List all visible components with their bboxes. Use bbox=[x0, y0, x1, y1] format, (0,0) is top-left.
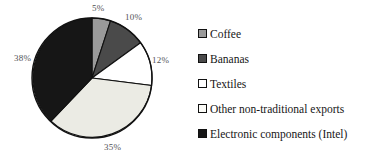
legend-item-other-nontraditional-exports: Other non-traditional exports bbox=[198, 96, 375, 121]
legend-item-bananas: Bananas bbox=[198, 46, 375, 71]
slice-label-electronic-components: 38% bbox=[14, 53, 31, 63]
legend-swatch-other-nontraditional-exports bbox=[198, 104, 207, 113]
pie-plot-area: 5% 10% 12% 35% 38% bbox=[0, 0, 196, 163]
legend-label-electronic-components: Electronic components (Intel) bbox=[210, 128, 347, 140]
legend-swatch-bananas bbox=[198, 54, 207, 63]
legend-item-textiles: Textiles bbox=[198, 71, 375, 96]
chart-legend: Coffee Bananas Textiles Other non-tradit… bbox=[198, 21, 375, 146]
legend-swatch-electronic-components bbox=[198, 129, 207, 138]
legend-item-coffee: Coffee bbox=[198, 21, 375, 46]
legend-label-textiles: Textiles bbox=[210, 78, 246, 90]
legend-item-electronic-components: Electronic components (Intel) bbox=[198, 121, 375, 146]
slice-label-bananas: 10% bbox=[125, 12, 142, 22]
slice-label-coffee: 5% bbox=[92, 3, 104, 13]
legend-swatch-coffee bbox=[198, 29, 207, 38]
legend-label-other-nontraditional-exports: Other non-traditional exports bbox=[210, 103, 344, 115]
legend-label-coffee: Coffee bbox=[210, 28, 241, 40]
pie-chart-figure: 5% 10% 12% 35% 38% Coffee Bananas Textil… bbox=[0, 0, 375, 163]
legend-label-bananas: Bananas bbox=[210, 53, 249, 65]
legend-swatch-textiles bbox=[198, 79, 207, 88]
slice-label-textiles: 12% bbox=[152, 55, 169, 65]
slice-label-other-nontraditional-exports: 35% bbox=[104, 142, 121, 152]
pie-graphic bbox=[0, 0, 196, 163]
